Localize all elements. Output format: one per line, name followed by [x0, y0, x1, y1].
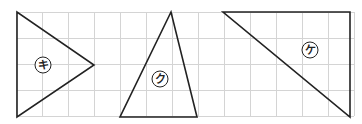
triangle-grid-figure: キ ク ケ — [0, 0, 362, 124]
label-ke: ケ — [305, 44, 316, 57]
label-ku: ク — [155, 73, 166, 86]
grid-lines — [16, 12, 355, 117]
label-ki: キ — [38, 59, 49, 72]
